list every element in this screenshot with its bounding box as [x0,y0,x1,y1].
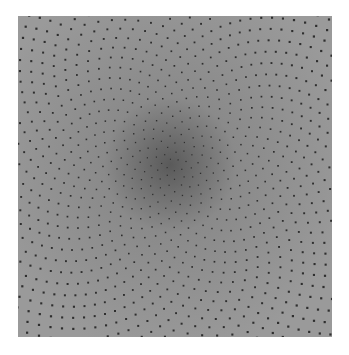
spiral-dot-pattern [18,16,332,337]
dot-pattern-image [18,16,332,337]
